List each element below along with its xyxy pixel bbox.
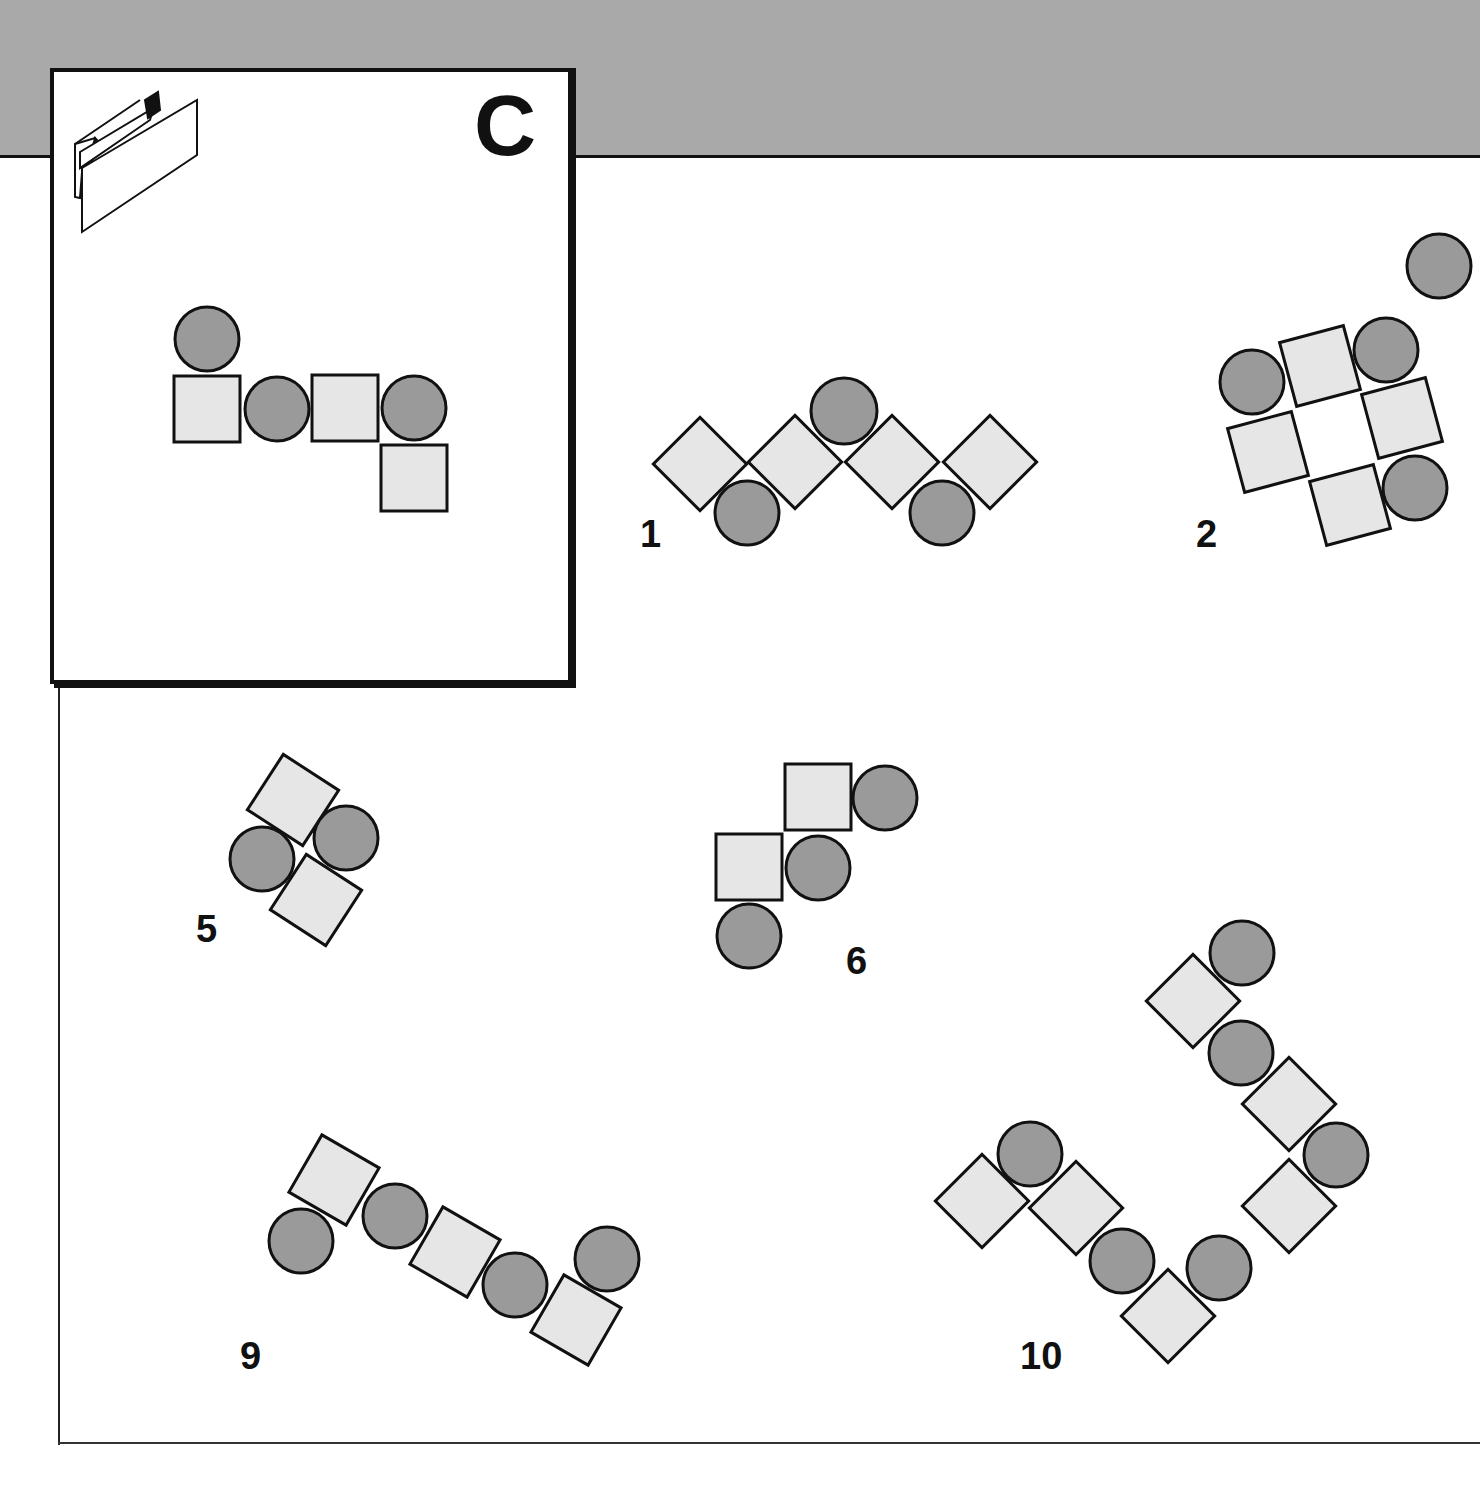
square-shape <box>312 375 378 441</box>
circle-shape <box>269 1209 333 1273</box>
circle-shape <box>1220 350 1284 414</box>
square-shape <box>174 376 240 442</box>
circle-shape <box>382 376 446 440</box>
square-shape <box>1310 465 1391 546</box>
circle-shape <box>230 827 294 891</box>
square-shape <box>785 764 851 830</box>
option-label-1: 1 <box>640 515 661 553</box>
circle-shape <box>175 307 239 371</box>
circle-shape <box>1383 456 1447 520</box>
circle-shape <box>1304 1123 1368 1187</box>
option-figure-10[interactable] <box>935 921 1368 1363</box>
circle-shape <box>1407 234 1471 298</box>
circle-shape <box>853 766 917 830</box>
square-shape <box>1362 378 1443 459</box>
option-figure-2[interactable] <box>1220 234 1471 545</box>
square-shape <box>716 834 782 900</box>
square-shape <box>381 445 447 511</box>
option-label-5: 5 <box>196 910 217 948</box>
option-figure-6[interactable] <box>716 764 917 968</box>
circle-shape <box>1090 1229 1154 1293</box>
square-shape <box>1280 326 1361 407</box>
option-label-9: 9 <box>240 1337 261 1375</box>
folded-paper-icon <box>75 92 197 232</box>
circle-shape <box>363 1184 427 1248</box>
option-label-6: 6 <box>846 942 867 980</box>
circle-shape <box>786 836 850 900</box>
circle-shape <box>1210 921 1274 985</box>
circle-shape <box>717 904 781 968</box>
option-figure-5[interactable] <box>230 754 378 945</box>
circle-shape <box>483 1253 547 1317</box>
option-label-10: 10 <box>1020 1337 1062 1375</box>
square-shape <box>1228 412 1309 493</box>
option-label-2: 2 <box>1196 515 1217 553</box>
circle-shape <box>1354 318 1418 382</box>
circle-shape <box>910 481 974 545</box>
shapes-canvas <box>0 0 1480 1503</box>
circle-shape <box>1187 1236 1251 1300</box>
option-figure-9[interactable] <box>269 1135 639 1365</box>
circle-shape <box>998 1122 1062 1186</box>
circle-shape <box>314 806 378 870</box>
reference-figure <box>174 307 447 511</box>
circle-shape <box>575 1227 639 1291</box>
option-figure-1[interactable] <box>653 378 1036 545</box>
circle-shape <box>1209 1021 1273 1085</box>
circle-shape <box>715 481 779 545</box>
circle-shape <box>811 378 877 444</box>
circle-shape <box>245 377 309 441</box>
